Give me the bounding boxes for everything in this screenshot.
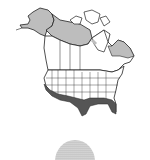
range-map (0, 0, 150, 125)
labrador-shaded (108, 40, 134, 58)
arctic-islands (70, 10, 110, 26)
globe-thumbnail (0, 125, 150, 160)
globe-icon (55, 140, 95, 160)
